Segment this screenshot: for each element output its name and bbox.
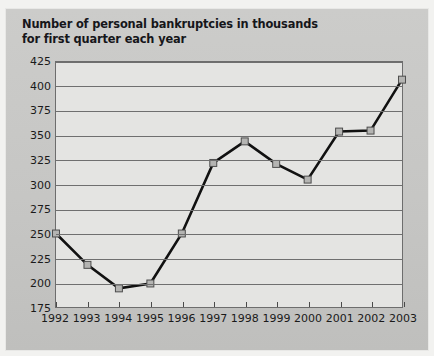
data-point-marker — [273, 160, 280, 167]
chart-title-line-1: Number of personal bankruptcies in thous… — [22, 17, 318, 31]
x-axis-tick — [183, 302, 184, 307]
gridline — [56, 86, 402, 87]
x-axis-tick — [214, 302, 215, 307]
x-axis-tick — [277, 302, 278, 307]
data-point-marker — [367, 127, 374, 134]
y-axis-tick-label: 300 — [17, 178, 51, 191]
chart-title: Number of personal bankruptcies in thous… — [22, 17, 412, 47]
data-point-marker — [115, 285, 122, 292]
y-axis-tick-label: 200 — [17, 277, 51, 290]
x-axis-tick-label: 1996 — [168, 312, 196, 325]
gridline — [56, 111, 402, 112]
x-axis-tick-label: 1994 — [104, 312, 132, 325]
x-axis-tick — [56, 302, 57, 307]
gridline — [56, 210, 402, 211]
gridline — [56, 160, 402, 161]
x-axis-tick — [246, 302, 247, 307]
x-axis-tick — [88, 302, 89, 307]
x-axis-tick-label: 1995 — [136, 312, 164, 325]
x-axis-tick-label: 2000 — [294, 312, 322, 325]
y-axis-tick-label: 400 — [17, 79, 51, 92]
data-point-marker — [304, 176, 311, 183]
y-axis-tick-label: 375 — [17, 104, 51, 117]
x-axis-tick-label: 1998 — [231, 312, 259, 325]
x-axis-tick-label: 2003 — [389, 312, 417, 325]
gridline — [56, 284, 402, 285]
y-axis-labels: 175200225250275300325350375400425 — [13, 61, 51, 308]
gridline — [56, 234, 402, 235]
data-point-marker — [241, 138, 248, 145]
x-axis-tick-label: 1997 — [199, 312, 227, 325]
x-axis-tick-label: 1992 — [41, 312, 69, 325]
y-axis-tick-label: 425 — [17, 55, 51, 68]
x-axis-tick — [151, 302, 152, 307]
data-point-marker — [336, 128, 343, 135]
chart-figure: Number of personal bankruptcies in thous… — [0, 0, 434, 356]
x-axis-tick-label: 1993 — [73, 312, 101, 325]
x-axis-tick — [119, 302, 120, 307]
x-axis-tick — [341, 302, 342, 307]
y-axis-tick-label: 225 — [17, 252, 51, 265]
y-axis-tick-label: 275 — [17, 203, 51, 216]
chart-panel: Number of personal bankruptcies in thous… — [6, 9, 428, 350]
gridline — [56, 62, 402, 63]
plot-area — [55, 61, 403, 308]
x-axis-tick-label: 2002 — [357, 312, 385, 325]
y-axis-tick-label: 250 — [17, 227, 51, 240]
x-axis-tick-label: 2001 — [326, 312, 354, 325]
y-axis-tick-label: 350 — [17, 129, 51, 142]
x-axis-tick — [372, 302, 373, 307]
x-axis-tick — [309, 302, 310, 307]
x-axis-labels: 1992199319941995199619971998199920002001… — [55, 312, 403, 332]
data-point-marker — [84, 261, 91, 268]
x-axis-tick — [404, 302, 405, 307]
gridline — [56, 185, 402, 186]
gridline — [56, 136, 402, 137]
data-point-marker — [399, 76, 406, 83]
chart-title-line-2: for first quarter each year — [22, 32, 412, 47]
y-axis-tick-label: 325 — [17, 153, 51, 166]
gridline — [56, 259, 402, 260]
x-axis-tick-label: 1999 — [262, 312, 290, 325]
